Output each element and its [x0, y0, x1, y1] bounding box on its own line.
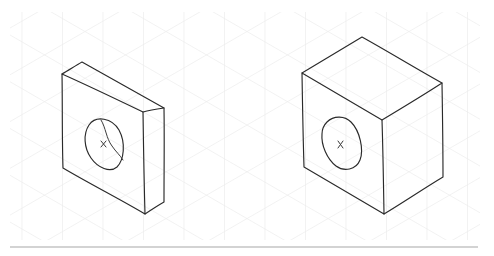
cube-side-face — [384, 83, 443, 214]
cube-top-face — [302, 37, 442, 120]
grid-line — [0, 216, 494, 256]
isometric-grid — [0, 0, 494, 256]
cube-block-sketch — [302, 37, 443, 214]
grid-line — [0, 0, 494, 34]
plate-hole-inner-edge — [101, 120, 123, 160]
grid-line — [0, 0, 494, 256]
grid-line — [0, 170, 494, 256]
grid-line — [0, 123, 494, 256]
sketch-canvas — [0, 0, 494, 256]
grid-line — [0, 0, 494, 174]
grid-line — [0, 0, 494, 34]
grid-line — [0, 76, 494, 256]
grid-line — [0, 76, 494, 256]
grid-line — [0, 170, 494, 256]
cube-front-face — [302, 73, 384, 214]
grid-line — [0, 29, 494, 256]
grid-line — [0, 29, 494, 256]
thin-plate-sketch — [62, 62, 164, 214]
grid-line — [0, 0, 494, 127]
grid-line — [0, 0, 494, 256]
grid-line — [0, 0, 494, 174]
grid-line — [0, 123, 494, 256]
grid-line — [0, 0, 494, 81]
grid-line — [0, 0, 494, 221]
plate-hole-center-mark — [101, 141, 106, 147]
cube-hole-center-mark — [338, 141, 343, 148]
grid-line — [0, 216, 494, 256]
grid-line — [0, 0, 494, 221]
grid-line — [0, 0, 494, 127]
plate-top-face — [62, 62, 164, 112]
grid-line — [0, 0, 494, 81]
